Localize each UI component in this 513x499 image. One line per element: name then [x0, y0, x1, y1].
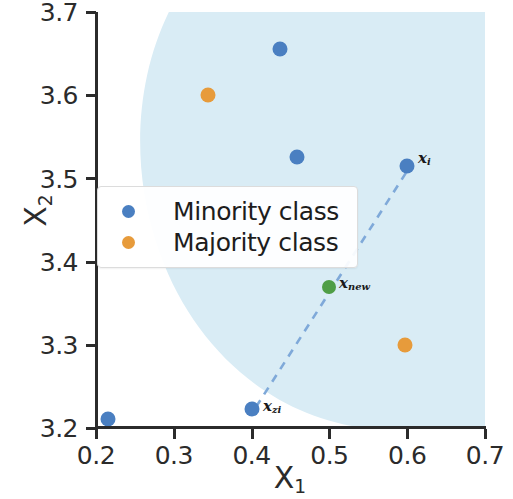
legend-label: Minority class: [173, 197, 339, 226]
y-axis-label-main: X: [18, 206, 53, 227]
x-axis-label-main: X: [274, 460, 295, 495]
x-tick-mark: [173, 429, 176, 439]
x-tick-label: 0.3: [139, 441, 209, 470]
x-tick-label: 0.6: [372, 441, 442, 470]
y-tick-mark: [86, 11, 96, 14]
point-label-xi: xi: [418, 149, 431, 167]
y-tick-mark: [86, 344, 96, 347]
y-tick-label: 3.3: [16, 331, 78, 360]
x-axis-spine: [95, 426, 486, 429]
data-point-majority[interactable]: [201, 88, 216, 103]
x-tick-mark: [251, 429, 254, 439]
x-tick-mark: [95, 429, 98, 439]
y-tick-label: 3.7: [16, 0, 78, 27]
data-point-synthetic-xnew[interactable]: [322, 280, 336, 294]
x-tick-mark: [484, 429, 487, 439]
y-tick-label: 3.2: [16, 414, 78, 443]
x-axis-label: X1: [220, 460, 360, 497]
data-point-minority[interactable]: [289, 149, 304, 164]
x-axis-label-sub: 1: [294, 476, 306, 497]
y-tick-mark: [86, 261, 96, 264]
y-tick-mark: [86, 94, 96, 97]
point-label-xzi: xzi: [263, 397, 281, 415]
data-point-minority-xzi[interactable]: [244, 401, 259, 416]
data-point-minority-xi[interactable]: [400, 159, 415, 174]
data-point-minority[interactable]: [100, 412, 115, 427]
x-tick-mark: [406, 429, 409, 439]
legend-label: Majority class: [173, 228, 338, 257]
x-tick-label: 0.7: [450, 441, 513, 470]
legend-swatch-circle-icon: [122, 205, 135, 218]
y-tick-mark: [86, 177, 96, 180]
x-tick-label: 0.2: [61, 441, 131, 470]
point-label-xnew: xnew: [339, 274, 370, 292]
y-axis-label: X2: [18, 166, 55, 256]
legend-item-majority[interactable]: Majority class: [110, 227, 339, 258]
y-tick-label: 3.6: [16, 81, 78, 110]
legend-item-minority[interactable]: Minority class: [110, 196, 339, 227]
legend: Minority class Majority class: [97, 186, 358, 268]
data-point-majority[interactable]: [397, 337, 412, 352]
y-axis-label-sub: 2: [35, 194, 56, 206]
scatter-plot-figure: xzi xi xnew 3.2 3.3 3.4 3.5 3.6 3.7 0.2 …: [0, 0, 513, 499]
data-point-minority[interactable]: [273, 42, 288, 57]
x-tick-mark: [328, 429, 331, 439]
legend-swatch-circle-icon: [122, 236, 135, 249]
